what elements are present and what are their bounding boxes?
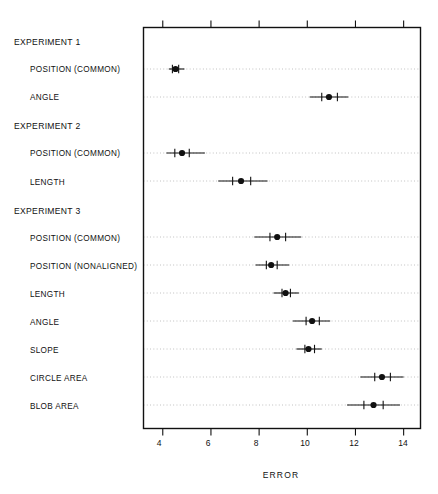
data-point: [238, 178, 244, 184]
data-point: [370, 402, 376, 408]
data-point: [326, 94, 332, 100]
xtick-label-6: 6: [206, 438, 211, 448]
axis-ticks-group: [163, 21, 404, 436]
data-point: [172, 66, 178, 72]
data-point: [305, 346, 311, 352]
dot-chart-figure: EXPERIMENT 1 POSITION (COMMON) ANGLE EXP…: [0, 0, 438, 494]
axis-tick-labels-group: 4 6 8 10 12 14: [157, 438, 408, 448]
data-point: [283, 290, 289, 296]
plot-canvas: 4 6 8 10 12 14 ERROR: [0, 0, 438, 494]
x-axis-title: ERROR: [263, 470, 300, 480]
data-point: [179, 150, 185, 156]
xtick-label-4: 4: [157, 438, 162, 448]
xtick-label-10: 10: [300, 438, 310, 448]
xtick-label-14: 14: [398, 438, 408, 448]
xtick-label-12: 12: [349, 438, 359, 448]
data-point: [268, 262, 274, 268]
xtick-label-8: 8: [254, 438, 259, 448]
data-point: [274, 234, 280, 240]
data-point: [309, 318, 315, 324]
data-point: [379, 374, 385, 380]
plot-frame: [144, 28, 421, 429]
